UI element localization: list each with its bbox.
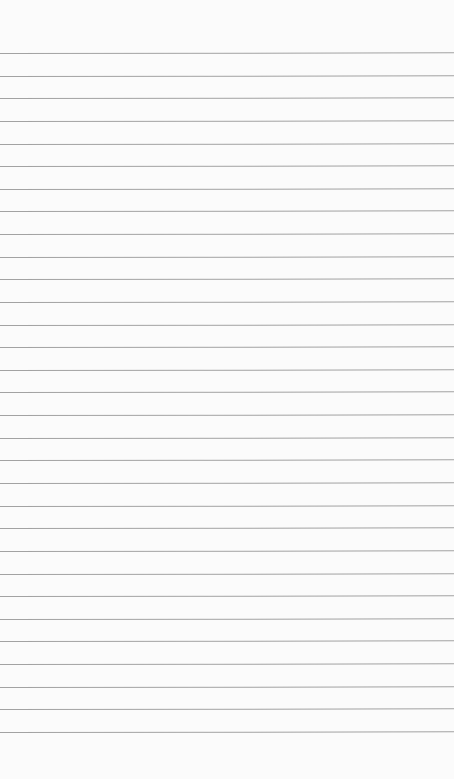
ruled-line [0,279,454,281]
ruled-line [0,52,454,54]
ruled-line [0,709,454,711]
ruled-line [0,595,454,597]
ruled-line [0,482,454,484]
ruled-line [0,347,454,349]
ruled-line [0,528,454,530]
ruled-line [0,75,454,77]
ruled-line [0,211,454,213]
ruled-line [0,233,454,235]
ruled-line [0,392,454,394]
ruled-line [0,618,454,620]
ruled-line [0,414,454,416]
ruled-line [0,731,454,733]
ruled-line [0,324,454,326]
ruled-line [0,663,454,665]
ruled-line [0,550,454,552]
lined-paper-page [0,0,454,779]
ruled-line [0,143,454,145]
ruled-line [0,460,454,462]
ruled-line [0,165,454,167]
ruled-line [0,301,454,303]
ruled-line [0,120,454,122]
ruled-line [0,256,454,258]
ruled-line [0,641,454,643]
ruled-line [0,188,454,190]
ruled-line [0,437,454,439]
ruled-line [0,505,454,507]
ruled-line [0,369,454,371]
ruled-line [0,98,454,100]
ruled-line [0,573,454,575]
ruled-line [0,686,454,688]
